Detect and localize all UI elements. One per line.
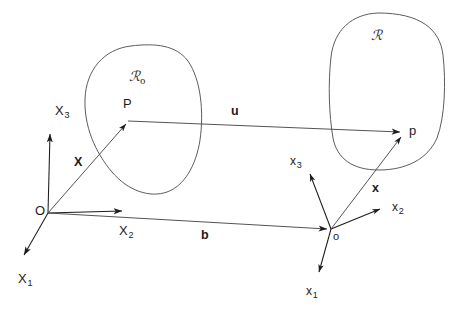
vector-X-line [48,124,126,213]
reference-origin-label: O [35,204,45,217]
axis-label-x1: x1 [306,285,318,300]
current-region-label: ℛ [371,28,382,42]
configuration-diagram: ℛo ℛ P p O o X u b x X3 X2 X1 x3 x2 x1 [0,0,454,314]
vector-x-label: x [372,182,379,195]
vector-b-line [48,213,327,229]
axis-label-X3: X3 [55,104,70,120]
axis-X3-line [48,134,50,213]
current-origin-label: o [333,231,339,242]
reference-region-subscript: o [140,76,145,86]
vector-u-label: u [231,105,239,118]
current-region-symbol: ℛ [371,27,382,43]
vector-X-label: X [74,156,83,169]
axis-label-X2: X2 [119,224,134,240]
axis-X2-line [48,211,122,213]
vector-b-label: b [201,229,209,242]
reference-region-outline [85,45,202,194]
material-point-label: P [123,97,132,110]
reference-region-label: ℛo [129,69,145,86]
reference-region-symbol: ℛ [129,68,140,84]
axis-x1-line [319,229,331,272]
axis-label-x3: x3 [290,155,302,170]
spatial-point-label: p [409,124,416,137]
axis-label-x2: x2 [392,201,404,216]
diagram-canvas [0,0,454,314]
axis-X1-line [24,213,48,255]
vector-u-line [128,121,400,132]
axis-label-X1: X1 [18,272,33,288]
axis-x3-line [310,174,331,229]
current-region-outline [329,13,444,170]
